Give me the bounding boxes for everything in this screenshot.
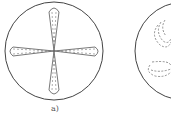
figure-canvas [0, 0, 171, 126]
swirl-dashes [148, 20, 171, 77]
panel-b-circle [135, 2, 171, 100]
lobe-right [54, 47, 98, 56]
panel-a-label: a) [51, 104, 59, 113]
panel-a [5, 2, 103, 100]
panel-b [135, 2, 171, 100]
lobe-left [10, 47, 54, 56]
